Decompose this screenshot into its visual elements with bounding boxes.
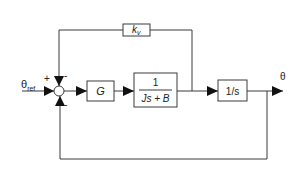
input-arrow-icon [44,86,54,96]
plant-numerator: 1 [153,77,159,88]
arrow-to-integrator-icon [207,86,218,96]
minus-sign-top: - [64,70,67,81]
arrow-to-plant-icon [123,86,134,96]
plant-denominator: Js + B [140,93,169,104]
plus-sign: + [44,73,50,84]
velocity-feedback-line-left [59,30,123,86]
output-label: θ [280,71,286,82]
minus-sign-bottom: - [64,99,67,110]
block-diagram: θref + - - G 1 Js + B 1/s kv θ [0,0,298,171]
input-label: θref [21,78,35,92]
velocity-feedback-arrow-icon [54,76,64,86]
output-arrow-icon [272,86,283,96]
controller-label: G [96,85,105,97]
summing-junction [54,86,64,96]
integrator-label: 1/s [226,86,239,97]
arrow-to-g-icon [76,86,87,96]
